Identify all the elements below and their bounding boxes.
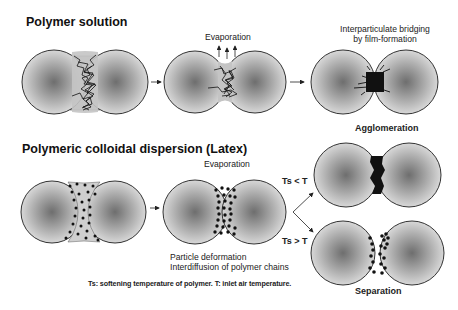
latex-stage-deforming xyxy=(163,180,286,244)
section-title-latex: Polymeric colloidal dispersion (Latex) xyxy=(22,143,247,156)
solution-stage-wet xyxy=(22,50,148,114)
figure-caption: Ts: softening temperature of polymer. T:… xyxy=(88,280,291,287)
latex-note-line1: Particle deformation xyxy=(170,253,289,262)
section-title-solution: Polymer solution xyxy=(26,16,127,29)
evaporation-label-latex: Evaporation xyxy=(204,160,250,169)
branch-arrow-icon xyxy=(293,193,313,232)
evaporation-arrows-icon xyxy=(219,46,235,59)
latex-note-line2: Interdiffusion of polymer chains xyxy=(170,263,289,272)
latex-outcome-agglomerated xyxy=(314,143,441,207)
outcome-agglomeration: Agglomeration xyxy=(355,124,419,133)
latex-stage-wet xyxy=(21,181,146,243)
bridging-label-line2: by film-formation xyxy=(330,35,440,44)
outcome-separation: Separation xyxy=(355,287,402,296)
latex-outcome-separated xyxy=(311,221,444,285)
evaporation-label-solution: Evaporation xyxy=(205,33,251,42)
bridging-label-line1: Interparticulate bridging xyxy=(330,25,440,34)
solution-stage-agglomerated xyxy=(311,50,438,114)
branch-label-lower: Ts > T xyxy=(282,237,308,246)
branch-label-upper: Ts < T xyxy=(282,177,308,186)
bridging-label: Interparticulate bridging by film-format… xyxy=(330,25,440,43)
solution-stage-evaporating xyxy=(164,51,286,113)
latex-note: Particle deformation Interdiffusion of p… xyxy=(170,253,289,271)
